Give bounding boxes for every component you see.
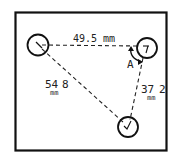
angle-label: A xyxy=(127,58,134,71)
dimension-left-decimal: 8 xyxy=(62,78,69,91)
dimension-top-label: 49.5 mm xyxy=(73,33,115,44)
hole-top-right-center-tick-2 xyxy=(146,46,148,53)
dimension-left-unit: mm xyxy=(50,89,58,97)
hole-bottom-center-tick xyxy=(124,121,131,129)
dimension-right-unit: mm xyxy=(147,94,155,102)
angle-arrowhead-top xyxy=(128,46,134,51)
dimension-line-top xyxy=(42,45,140,46)
hole-top-left-center-tick xyxy=(36,42,42,48)
dimension-right-decimal: 2 xyxy=(159,83,166,96)
hole-pattern-diagram: A 49.5 mm 54 8 mm 37 2 mm xyxy=(0,0,182,167)
